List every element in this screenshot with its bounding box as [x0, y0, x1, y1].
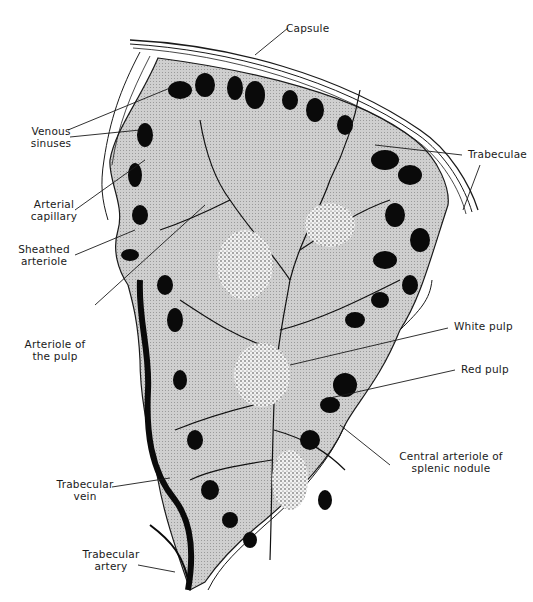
label-trabecular-vein: Trabecular vein [56, 478, 114, 502]
label-white-pulp: White pulp [454, 320, 513, 332]
label-trabecular-artery: Trabecular artery [82, 548, 140, 572]
parenchyma [110, 58, 448, 590]
label-trabeculae: Trabeculae [468, 148, 527, 160]
label-red-pulp: Red pulp [461, 363, 509, 375]
spleen-diagram: Capsule Venous sinuses Trabeculae Arteri… [0, 0, 533, 602]
label-venous-sinuses: Venous sinuses [22, 125, 80, 149]
spleen-illustration [0, 0, 533, 602]
white-pulp-nodule [217, 230, 273, 300]
label-arterial-capillary: Arterial capillary [28, 198, 80, 222]
label-capsule: Capsule [286, 22, 329, 34]
label-arteriole-of-the-pulp: Arteriole of the pulp [22, 338, 88, 362]
white-pulp-nodule [305, 203, 355, 247]
label-sheathed-arteriole: Sheathed arteriole [16, 243, 72, 267]
white-pulp-nodule [272, 450, 308, 510]
white-pulp-nodule [234, 343, 290, 407]
label-central-arteriole: Central arteriole of splenic nodule [396, 450, 506, 474]
